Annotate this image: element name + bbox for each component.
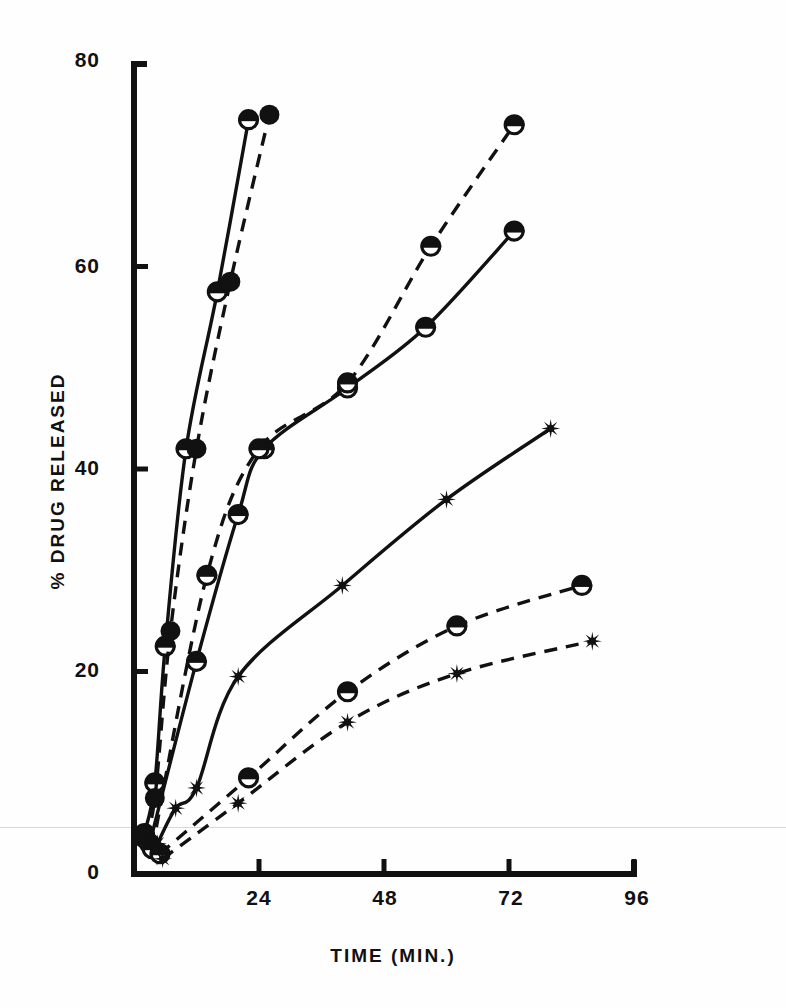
data-marker-star: [437, 490, 456, 509]
series-line: [150, 231, 515, 844]
data-marker-half-filled-circle: [186, 652, 206, 670]
series-line: [157, 429, 550, 844]
data-marker-star: [229, 794, 248, 813]
y-axis-title: % DRUG RELEASED: [47, 361, 69, 601]
y-tick-label-20: 20: [40, 658, 100, 682]
data-marker-half-filled-circle: [572, 576, 592, 594]
x-tick-label-96: 96: [607, 886, 667, 910]
data-marker-star: [333, 576, 352, 595]
data-marker-filled-circle: [160, 621, 180, 641]
data-marker-star: [583, 632, 602, 651]
data-marker-half-filled-circle: [228, 506, 248, 524]
y-tick-label-80: 80: [40, 48, 100, 72]
data-marker-half-filled-circle: [238, 769, 258, 787]
x-tick-label-48: 48: [355, 886, 415, 910]
data-marker-half-filled-circle: [337, 683, 357, 701]
series-line: [163, 641, 593, 859]
data-marker-half-filled-circle: [504, 222, 524, 240]
data-marker-half-filled-circle: [337, 374, 357, 392]
y-tick-label-60: 60: [40, 254, 100, 278]
data-marker-filled-circle: [220, 272, 240, 292]
series-line: [144, 115, 269, 839]
data-marker-half-filled-circle: [415, 318, 435, 336]
data-series: [142, 116, 524, 858]
x-tick-label-24: 24: [229, 886, 289, 910]
data-series: [148, 419, 560, 853]
data-series: [153, 632, 602, 869]
data-marker-star: [229, 667, 248, 686]
data-marker-star: [153, 849, 172, 868]
data-marker-filled-circle: [259, 105, 279, 125]
x-axis-title: TIME (MIN.): [0, 945, 786, 967]
drug-release-plot: [0, 0, 786, 1008]
y-tick-label-0: 0: [40, 860, 100, 884]
data-marker-star: [166, 799, 185, 818]
data-marker-half-filled-circle: [238, 111, 258, 129]
data-marker-star: [447, 664, 466, 683]
data-marker-half-filled-circle: [197, 566, 217, 584]
data-marker-half-filled-circle: [504, 116, 524, 134]
series-line: [152, 125, 514, 849]
figure-canvas: 80 60 40 20 0 24 48 72 96 % DRUG RELEASE…: [0, 0, 786, 1008]
data-marker-star: [338, 713, 357, 732]
data-marker-half-filled-circle: [249, 440, 269, 458]
data-marker-star: [187, 778, 206, 797]
data-series: [139, 222, 524, 853]
x-tick-label-72: 72: [481, 886, 541, 910]
data-marker-star: [541, 419, 560, 438]
data-marker-half-filled-circle: [447, 617, 467, 635]
data-marker-half-filled-circle: [421, 237, 441, 255]
data-series: [134, 105, 279, 849]
data-marker-filled-circle: [187, 439, 207, 459]
